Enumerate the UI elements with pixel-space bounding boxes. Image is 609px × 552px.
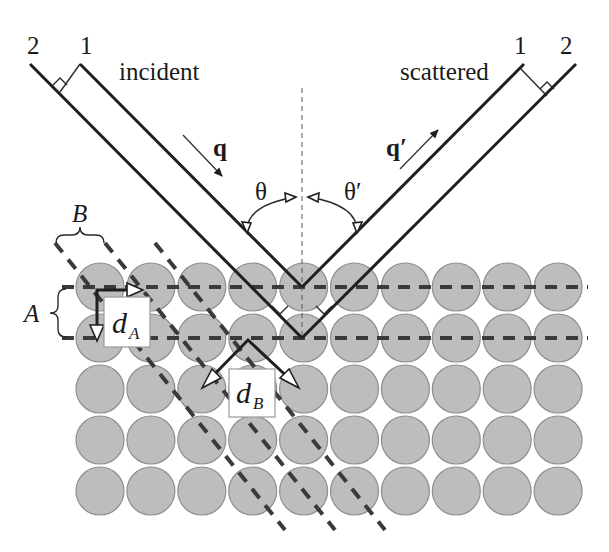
- q-prime-label: q′: [386, 134, 407, 161]
- theta-label: θ: [255, 178, 267, 205]
- atom: [381, 467, 429, 515]
- atom: [127, 467, 175, 515]
- incident-label: incident: [119, 58, 200, 85]
- q-label: q: [213, 134, 227, 161]
- diffraction-diagram: dA dB A B 2 1 incident scattered 1 2 q q…: [0, 0, 609, 552]
- atom: [229, 416, 277, 464]
- atom: [534, 365, 582, 413]
- atom: [280, 416, 328, 464]
- atom: [483, 467, 531, 515]
- incident-ray-1: [80, 64, 302, 287]
- d-a-label-box: [104, 297, 150, 347]
- scattered-label: scattered: [400, 58, 489, 85]
- atom: [76, 467, 124, 515]
- atom: [381, 416, 429, 464]
- atom: [534, 416, 582, 464]
- ray-2-label-left: 2: [27, 32, 40, 59]
- plane-b-brace: [56, 227, 104, 243]
- atom: [331, 365, 379, 413]
- atom: [331, 416, 379, 464]
- plane-a-label: A: [22, 300, 40, 327]
- atom: [483, 365, 531, 413]
- plane-a-brace: [50, 289, 66, 337]
- plane-b-label: B: [72, 200, 87, 227]
- atom: [178, 467, 226, 515]
- theta-prime-label: θ′: [344, 178, 361, 205]
- atom: [127, 365, 175, 413]
- atom: [432, 365, 480, 413]
- atom: [432, 263, 480, 311]
- theta-arc: [242, 193, 296, 233]
- scattered-ray-1: [302, 64, 524, 287]
- atom: [127, 416, 175, 464]
- atom: [432, 467, 480, 515]
- atom: [534, 467, 582, 515]
- ray-1-label-right: 1: [514, 32, 527, 59]
- atom: [381, 365, 429, 413]
- ray-2-label-right: 2: [560, 32, 573, 59]
- atom: [432, 314, 480, 362]
- atom: [76, 416, 124, 464]
- atom: [483, 416, 531, 464]
- atom: [76, 365, 124, 413]
- atom: [432, 416, 480, 464]
- ray-1-label-left: 1: [80, 32, 93, 59]
